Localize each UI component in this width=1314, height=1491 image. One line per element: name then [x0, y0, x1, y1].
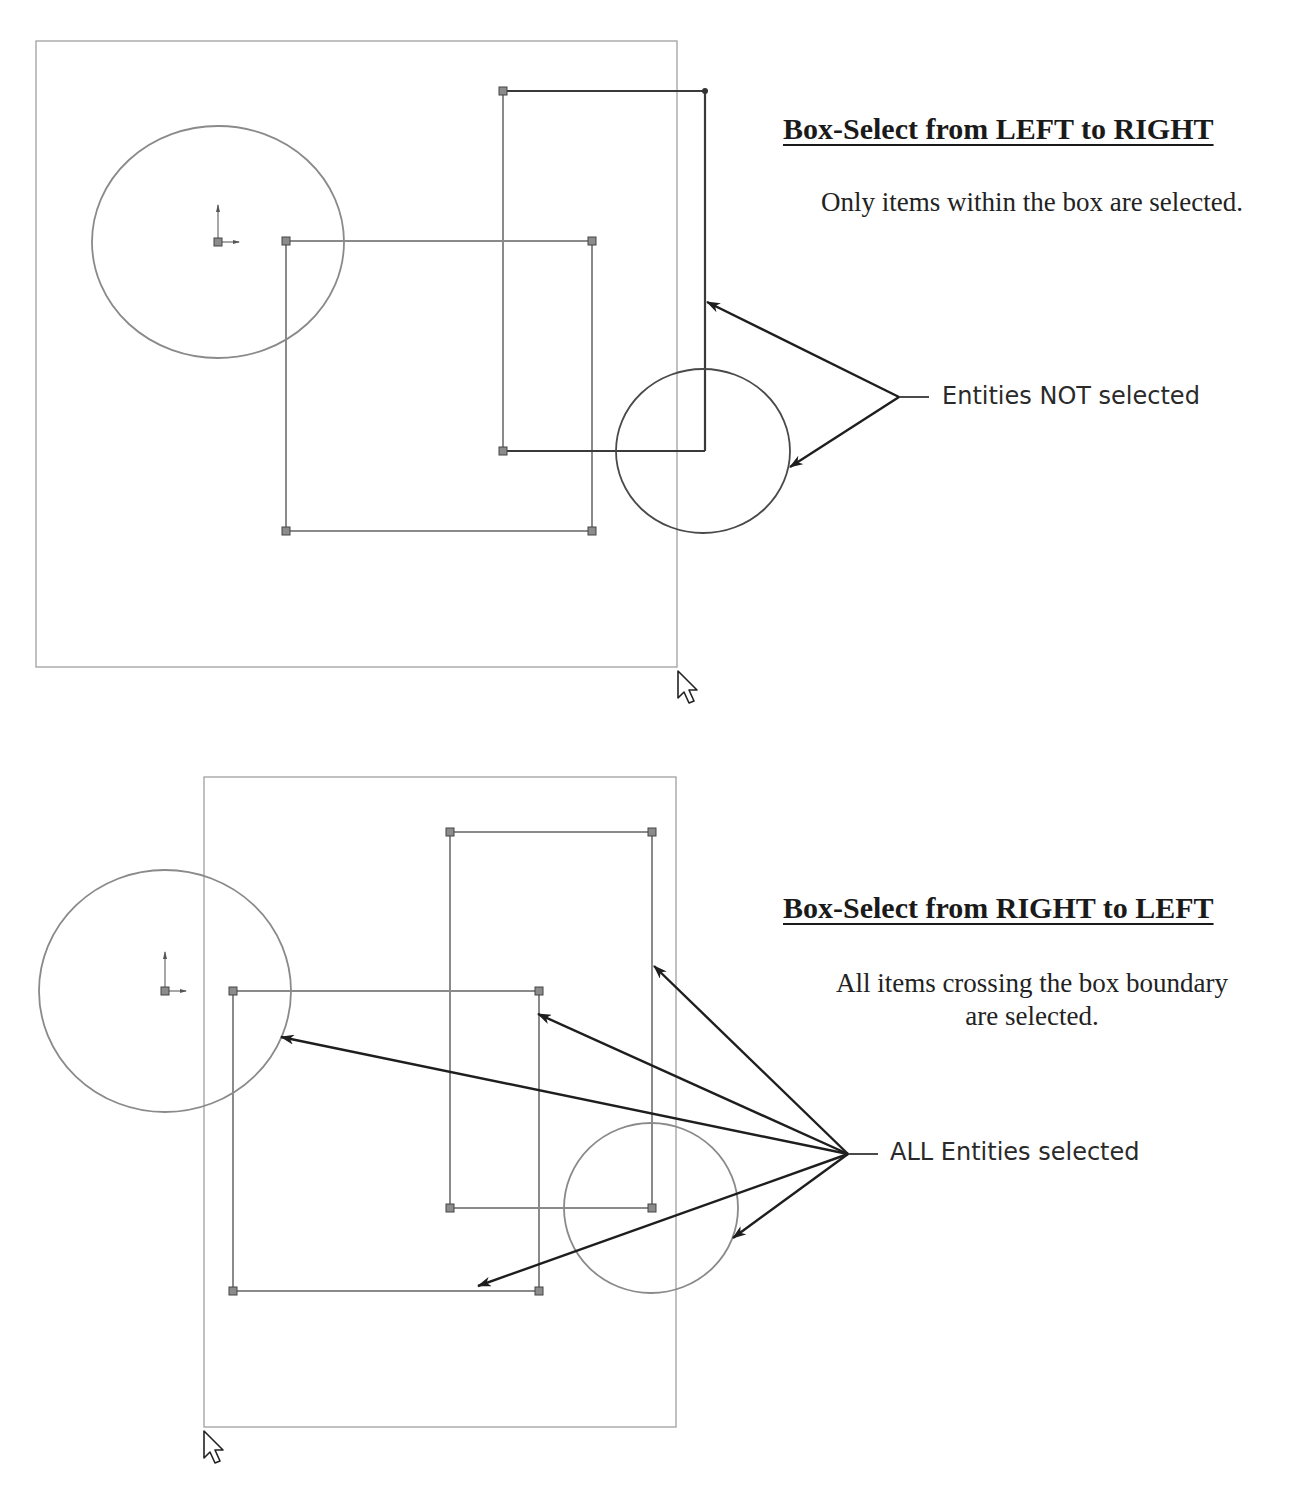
- selection-box: [36, 41, 677, 667]
- endpoint-markers: [229, 987, 543, 1295]
- sketch-rectangle: [286, 241, 592, 531]
- description-left-to-right: Only items within the box are selected.: [770, 186, 1294, 219]
- origin-icon: [161, 951, 187, 995]
- mouse-cursor-icon: [678, 671, 697, 703]
- mouse-cursor-icon: [204, 1431, 223, 1463]
- description-right-to-left: All items crossing the box boundary are …: [770, 967, 1294, 1033]
- description-line-1: All items crossing the box boundary: [770, 967, 1294, 1000]
- callout-arrows: [707, 302, 929, 467]
- origin-icon: [214, 204, 240, 246]
- description-line-2: are selected.: [770, 1000, 1294, 1033]
- diagram-canvas: [0, 0, 1314, 1491]
- heading-right-to-left: Box-Select from RIGHT to LEFT: [783, 891, 1214, 925]
- callout-not-selected: Entities NOT selected: [942, 382, 1200, 410]
- heading-left-to-right: Box-Select from LEFT to RIGHT: [783, 112, 1214, 146]
- sketch-rectangle: [233, 991, 539, 1291]
- selection-box: [204, 777, 676, 1427]
- callout-all-selected: ALL Entities selected: [890, 1138, 1140, 1166]
- panel-right-to-left: [39, 777, 878, 1463]
- endpoint-markers: [282, 237, 596, 535]
